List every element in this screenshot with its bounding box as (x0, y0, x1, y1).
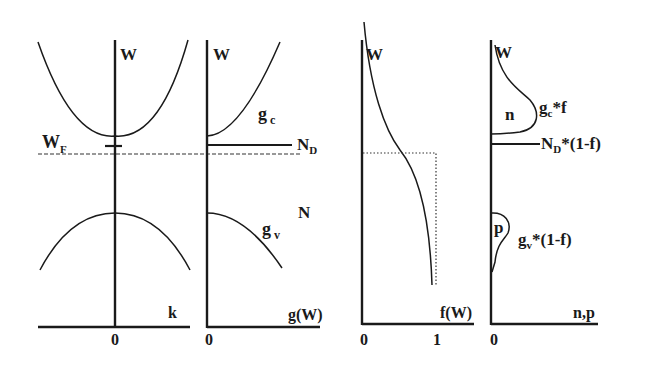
n-area-label: n (505, 105, 515, 124)
fermi-w-axis-label: W (366, 45, 383, 64)
n-label: N (298, 203, 311, 222)
conduction-band-curve (38, 40, 188, 136)
dos-origin-label: 0 (205, 331, 213, 348)
fw-axis-label: f(W) (440, 304, 472, 322)
gv-label-sub: v (274, 228, 280, 242)
fermi-level-label-main: W (42, 132, 60, 152)
gc-label-main: g (258, 104, 267, 124)
nd-1-f-label: ND*(1-f) (541, 134, 601, 155)
gc-f-label: gc*f (539, 98, 567, 119)
gv-1-f-label-rest: *(1-f) (532, 230, 572, 249)
fermi-level-label: WF (42, 132, 67, 155)
density-of-states-panel: W gc ND N gv g(W) 0 (205, 40, 323, 348)
semiconductor-band-diagram: W WF k 0 W gc ND N gv g(W) 0 W f(W) 0 1 (0, 0, 651, 366)
gw-axis-label: g(W) (288, 306, 323, 324)
gc-label-sub: c (270, 113, 276, 127)
band-w-axis-label: W (120, 45, 137, 64)
gc-f-label-rest: *f (552, 98, 567, 117)
gv-label-main: g (262, 219, 271, 239)
fermi-tick-1: 1 (433, 331, 441, 348)
fermi-level-label-sub: F (60, 143, 67, 155)
band-origin-label: 0 (111, 331, 119, 348)
nd-1-f-label-sub: D (553, 143, 561, 155)
fermi-tick-0: 0 (360, 331, 368, 348)
k-axis-label: k (168, 304, 177, 321)
gv-1-f-label: gv*(1-f) (518, 230, 572, 251)
carrier-concentration-panel: W n gc*f ND*(1-f) p gv*(1-f) n,p 0 (490, 40, 601, 348)
dos-w-axis-label: W (213, 45, 230, 64)
gv-label: gv (262, 219, 280, 242)
carrier-w-axis-label: W (495, 43, 512, 62)
gc-label: gc (258, 104, 276, 127)
nd-label-sub: D (309, 144, 317, 156)
p-area-label: p (494, 218, 503, 237)
band-structure-panel: W WF k 0 (38, 40, 190, 348)
nd-label: ND (297, 135, 317, 156)
step-function-dotted (363, 153, 436, 286)
carrier-origin-label: 0 (490, 331, 498, 348)
nd-label-main: N (297, 135, 310, 154)
nd-1-f-label-main: N (541, 134, 554, 153)
nd-1-f-label-rest: *(1-f) (561, 134, 601, 153)
fermi-function-panel: W f(W) 0 1 (360, 22, 474, 348)
np-axis-label: n,p (573, 304, 595, 322)
